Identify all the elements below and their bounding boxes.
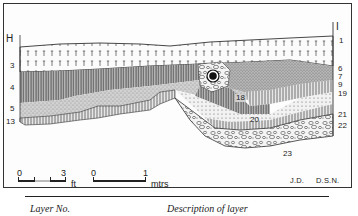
layer-label: 1 xyxy=(339,37,343,45)
layer-label-20: 20 xyxy=(250,116,259,124)
layer-label: 21 xyxy=(338,111,347,119)
section-end-left: H xyxy=(6,34,13,44)
layer-label: 19 xyxy=(338,90,347,98)
column-header-layer-no: Layer No. xyxy=(30,203,70,214)
section-end-right: I xyxy=(336,22,339,32)
layer-label: 22 xyxy=(338,122,347,130)
scale-metres-unit: mtrs xyxy=(151,179,169,189)
layer-label: 9 xyxy=(338,81,342,89)
table-header-rule xyxy=(147,196,329,197)
layer-label-18: 18 xyxy=(235,94,246,102)
table-header-rule xyxy=(25,196,147,197)
section-drawing xyxy=(0,0,358,190)
layer-label: 3 xyxy=(10,62,14,70)
layer-label-23: 23 xyxy=(283,150,292,158)
layer-label: 13 xyxy=(6,118,15,126)
column-header-description: Description of layer xyxy=(167,203,248,214)
scale-feet-unit: ft xyxy=(71,179,76,189)
credit-initials-2: D.S.N. xyxy=(316,176,339,185)
credit-initials-1: J.D. xyxy=(290,176,304,185)
layer-label: 4 xyxy=(10,84,14,92)
layer-label: 5 xyxy=(10,105,14,113)
